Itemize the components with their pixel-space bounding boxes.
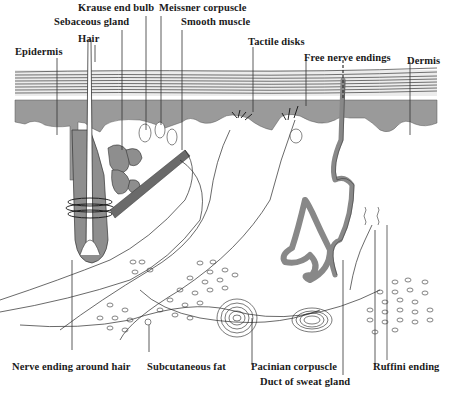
sebaceous-gland — [108, 145, 142, 194]
label-meissner-corpuscle: Meissner corpuscle — [159, 2, 247, 14]
label-duct-of-sweat-gland: Duct of sweat gland — [260, 376, 350, 388]
ruffini-endings — [364, 207, 379, 225]
nerve-fibers — [0, 120, 387, 360]
free-nerve-ending-bulb — [290, 129, 302, 143]
label-subcutaneous-fat: Subcutaneous fat — [147, 361, 226, 373]
label-tactile-disks: Tactile disks — [248, 36, 305, 48]
label-smooth-muscle: Smooth muscle — [181, 16, 250, 28]
label-sebaceous-gland: Sebaceous gland — [54, 16, 129, 28]
epidermis-layer — [15, 68, 437, 96]
meissner-corpuscle-shape — [139, 124, 151, 142]
label-ruffini-ending: Ruffini ending — [373, 361, 439, 373]
label-pacinian-corpuscle: Pacinian corpuscle — [251, 361, 337, 373]
label-hair: Hair — [78, 33, 99, 45]
pacinian-corpuscles — [217, 299, 332, 337]
label-free-nerve-endings: Free nerve endings — [304, 52, 391, 64]
label-dermis: Dermis — [407, 55, 440, 67]
label-epidermis: Epidermis — [15, 46, 63, 58]
subcutaneous-fat-cells — [97, 260, 433, 334]
label-nerve-ending-around-hair: Nerve ending around hair — [12, 361, 131, 373]
label-krause-end-bulb: Krause end bulb — [78, 2, 154, 14]
